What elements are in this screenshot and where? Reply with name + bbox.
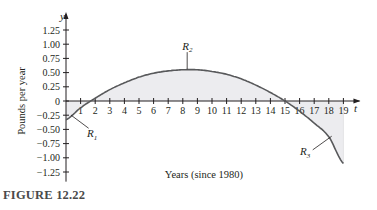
r1-leader-line [71,115,89,128]
x-tick-label: 6 [151,105,156,116]
x-axis-symbol: t [354,102,358,114]
y-tick-label: 0.50 [43,67,61,78]
x-tick-label: 2 [93,105,98,116]
r3-leader-line [313,136,332,150]
x-tick-label: 11 [222,105,232,116]
y-tick-label: 0.75 [43,53,61,64]
y-tick-label: 0 [55,96,60,107]
x-tick-label: 12 [236,105,246,116]
y-tick-label: 1.00 [43,39,61,50]
x-tick-label: 10 [207,105,217,116]
x-tick-label: 15 [280,105,290,116]
label-r3: R3 [299,145,311,160]
y-tick-label: −1.25 [37,167,60,178]
x-tick-label: 13 [251,105,261,116]
y-tick-label: −0.50 [37,124,60,135]
y-tick-label: 1.25 [43,25,61,36]
y-tick-label: −0.25 [37,110,60,121]
y-tick-label: −0.75 [37,138,60,149]
y-axis-title: Pounds per year [16,67,27,135]
figure-caption: FIGURE 12.22 [3,188,85,203]
y-tick-label: −1.00 [37,152,60,163]
x-tick-label: 8 [180,105,185,116]
x-tick-label: 4 [122,105,127,116]
x-tick-label: 14 [265,105,275,116]
x-tick-label: 17 [309,105,319,116]
chart: 123456789101112131415161718191.251.000.7… [0,0,377,210]
label-r1: R1 [86,127,97,142]
x-tick-label: 3 [107,105,112,116]
x-axis-title: Years (since 1980) [165,169,244,181]
x-tick-label: 9 [195,105,200,116]
y-axis-symbol: y [59,10,65,22]
x-tick-label: 19 [338,105,348,116]
x-tick-label: 18 [324,105,334,116]
x-tick-label: 7 [166,105,171,116]
x-tick-label: 5 [137,105,142,116]
y-tick-label: 0.25 [43,81,61,92]
